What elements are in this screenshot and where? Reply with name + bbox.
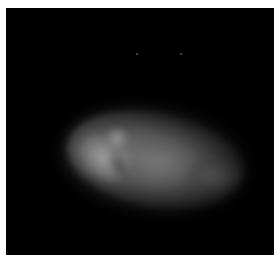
nucleus-bright-spot (104, 128, 130, 150)
nucleus-mid-region (126, 138, 196, 188)
nucleus-right-lobe (186, 158, 240, 194)
speck (136, 53, 138, 55)
speck (180, 53, 182, 55)
micrograph-frame (6, 8, 274, 255)
